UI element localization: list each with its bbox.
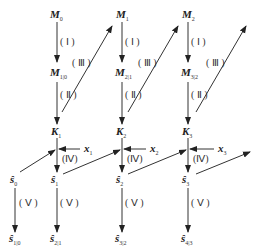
- step-IV-2: (Ⅳ): [127, 153, 143, 165]
- column-1: M0 ( Ⅰ ) M1|0 ( Ⅱ ) ( Ⅲ ) K1 x1 (Ⅳ) ŝ1 (…: [49, 8, 112, 246]
- initial-state: ŝ0 ( Ⅴ ) ŝ1|0: [8, 150, 55, 246]
- node-x3: x3: [217, 142, 227, 156]
- node-s10: ŝ1|0: [8, 232, 20, 246]
- node-s3: ŝ3: [181, 173, 189, 187]
- kalman-filter-diagram: M0 ( Ⅰ ) M1|0 ( Ⅱ ) ( Ⅲ ) K1 x1 (Ⅳ) ŝ1 (…: [0, 0, 260, 250]
- node-K1: K1: [50, 125, 61, 139]
- step-V-2: ( Ⅴ ): [125, 197, 144, 209]
- node-x1: x1: [83, 142, 93, 156]
- node-M2: M2: [181, 8, 195, 22]
- step-V-3: ( Ⅴ ): [191, 197, 210, 209]
- step-V-0: ( Ⅴ ): [19, 197, 38, 209]
- step-I-3: ( Ⅰ ): [191, 36, 206, 48]
- step-V-1: ( Ⅴ ): [60, 197, 79, 209]
- step-III-3: ( Ⅲ ): [206, 57, 225, 69]
- step-IV-3: (Ⅳ): [193, 153, 209, 165]
- column-2: M1 ( Ⅰ ) M2|1 ( Ⅱ ) ( Ⅲ ) K2 x2 (Ⅳ) ŝ2 (…: [63, 8, 178, 246]
- step-I-1: ( Ⅰ ): [60, 36, 75, 48]
- step-IV-1: (Ⅳ): [62, 153, 78, 165]
- node-s43: ŝ4|3: [180, 232, 192, 246]
- node-M21: M2|1: [114, 66, 132, 80]
- node-s32: ŝ3|2: [114, 232, 126, 246]
- step-III-1: ( Ⅲ ): [72, 57, 91, 69]
- node-M0: M0: [49, 8, 63, 22]
- node-s21: ŝ2|1: [49, 232, 61, 246]
- column-3: M2 ( Ⅰ ) M3|2 ( Ⅱ ) ( Ⅲ ) K3 x3 (Ⅳ) ŝ3 (…: [128, 8, 250, 246]
- node-M10: M1|0: [49, 66, 67, 80]
- node-M32: M3|2: [180, 66, 198, 80]
- step-III-2: ( Ⅲ ): [138, 57, 157, 69]
- node-s2: ŝ2: [115, 173, 123, 187]
- node-x2: x2: [149, 142, 159, 156]
- step-I-2: ( Ⅰ ): [125, 36, 140, 48]
- node-s0: ŝ0: [9, 173, 17, 187]
- node-M1: M1: [115, 8, 129, 22]
- step-II-2: ( Ⅱ ): [125, 89, 142, 101]
- step-II-3: ( Ⅱ ): [191, 89, 208, 101]
- node-K3: K3: [181, 125, 192, 139]
- node-K2: K2: [115, 125, 126, 139]
- node-s1: ŝ1: [50, 173, 58, 187]
- arrow-s0-junction1: [20, 150, 55, 172]
